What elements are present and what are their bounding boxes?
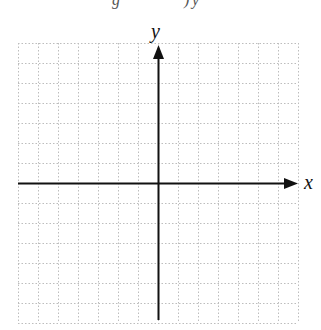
coordinate-plane xyxy=(0,0,321,330)
x-axis-label: x xyxy=(304,171,313,194)
x-axis-arrow-icon xyxy=(284,178,298,189)
y-axis-label: y xyxy=(151,20,160,43)
y-axis-arrow-icon xyxy=(153,45,164,59)
